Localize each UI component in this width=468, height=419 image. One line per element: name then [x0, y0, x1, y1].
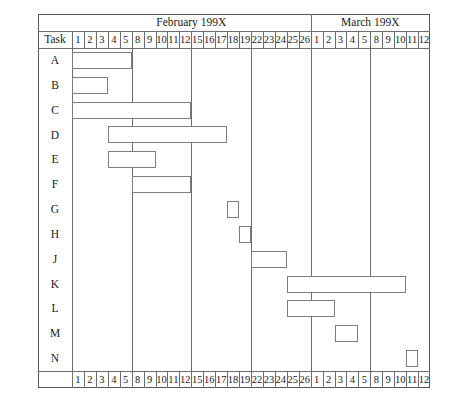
- day-footer-8-25: 8: [370, 371, 382, 388]
- day-header-5-24: 5: [358, 31, 370, 48]
- day-header-separator: [299, 31, 300, 48]
- day-footer-10-7: 10: [156, 371, 168, 388]
- day-footer-8-5: 8: [132, 371, 144, 388]
- week-gridline: [132, 48, 133, 371]
- day-footer-12-29: 12: [418, 371, 430, 388]
- day-header-separator: [227, 31, 228, 48]
- day-footer-26-19: 26: [299, 371, 311, 388]
- day-header-1-20: 1: [311, 31, 323, 48]
- day-header-separator: [215, 31, 216, 48]
- day-header-separator: [335, 31, 336, 48]
- day-header-separator: [144, 31, 145, 48]
- day-header-10-27: 10: [394, 31, 406, 48]
- day-header-15-10: 15: [191, 31, 203, 48]
- day-footer-separator: [299, 371, 300, 388]
- task-label-D: D: [38, 123, 72, 148]
- day-footer-5-24: 5: [358, 371, 370, 388]
- gantt-bar-K: [287, 276, 406, 293]
- day-header-2-21: 2: [323, 31, 335, 48]
- day-header-4-3: 4: [108, 31, 120, 48]
- day-footer-18-13: 18: [227, 371, 239, 388]
- task-label-G: G: [38, 197, 72, 222]
- day-header-separator: [275, 31, 276, 48]
- day-footer-separator: [394, 371, 395, 388]
- day-header-3-22: 3: [335, 31, 347, 48]
- day-header-separator: [287, 31, 288, 48]
- day-footer-2-21: 2: [323, 371, 335, 388]
- day-footer-separator: [311, 371, 312, 388]
- day-footer-22-15: 22: [251, 371, 263, 388]
- day-header-11-28: 11: [406, 31, 418, 48]
- task-label-N: N: [38, 346, 72, 371]
- day-footer-separator: [346, 371, 347, 388]
- gantt-bar-N: [406, 350, 418, 367]
- day-header-separator: [323, 31, 324, 48]
- gantt-bar-M: [335, 325, 359, 342]
- day-header-1-0: 1: [72, 31, 84, 48]
- day-footer-16-11: 16: [203, 371, 215, 388]
- day-header-5-4: 5: [120, 31, 132, 48]
- day-footer-4-23: 4: [346, 371, 358, 388]
- day-footer-10-27: 10: [394, 371, 406, 388]
- day-header-separator: [394, 31, 395, 48]
- day-header-10-7: 10: [156, 31, 168, 48]
- day-footer-1-0: 1: [72, 371, 84, 388]
- day-header-separator: [120, 31, 121, 48]
- day-header-12-9: 12: [179, 31, 191, 48]
- day-footer-25-18: 25: [287, 371, 299, 388]
- day-footer-separator: [191, 371, 192, 388]
- day-footer-12-9: 12: [179, 371, 191, 388]
- day-footer-19-14: 19: [239, 371, 251, 388]
- day-header-19-14: 19: [239, 31, 251, 48]
- day-footer-separator: [203, 371, 204, 388]
- day-footer-separator: [370, 371, 371, 388]
- gantt-bar-G: [227, 201, 239, 218]
- task-label-A: A: [38, 48, 72, 73]
- month-header-1: February 199X: [72, 14, 311, 31]
- day-header-separator: [191, 31, 192, 48]
- day-footer-2-1: 2: [84, 371, 96, 388]
- day-header-8-5: 8: [132, 31, 144, 48]
- day-footer-3-22: 3: [335, 371, 347, 388]
- day-header-separator: [96, 31, 97, 48]
- day-footer-4-3: 4: [108, 371, 120, 388]
- gantt-bar-D: [108, 126, 227, 143]
- day-footer-separator: [287, 371, 288, 388]
- day-footer-separator: [156, 371, 157, 388]
- day-header-12-29: 12: [418, 31, 430, 48]
- day-header-4-23: 4: [346, 31, 358, 48]
- day-footer-separator: [418, 371, 419, 388]
- day-header-2-1: 2: [84, 31, 96, 48]
- day-footer-23-16: 23: [263, 371, 275, 388]
- day-footer-separator: [323, 371, 324, 388]
- gantt-chart: February 199XMarch 199X11223344558899101…: [38, 14, 430, 388]
- day-header-separator: [370, 31, 371, 48]
- task-column-header: Task: [38, 31, 72, 48]
- day-footer-separator: [84, 371, 85, 388]
- day-header-11-8: 11: [167, 31, 179, 48]
- day-header-separator: [239, 31, 240, 48]
- day-header-8-25: 8: [370, 31, 382, 48]
- day-footer-separator: [167, 371, 168, 388]
- task-label-L: L: [38, 296, 72, 321]
- day-footer-3-2: 3: [96, 371, 108, 388]
- day-footer-separator: [132, 371, 133, 388]
- gantt-bar-J: [251, 251, 287, 268]
- task-label-M: M: [38, 321, 72, 346]
- day-header-separator: [84, 31, 85, 48]
- day-footer-separator: [275, 371, 276, 388]
- day-footer-separator: [144, 371, 145, 388]
- day-header-separator: [263, 31, 264, 48]
- day-header-separator: [156, 31, 157, 48]
- day-header-separator: [346, 31, 347, 48]
- week-gridline: [311, 48, 312, 371]
- gantt-bar-F: [132, 176, 192, 193]
- week-gridline: [251, 48, 252, 371]
- day-footer-separator: [120, 371, 121, 388]
- task-label-J: J: [38, 247, 72, 272]
- week-gridline: [191, 48, 192, 371]
- day-footer-17-12: 17: [215, 371, 227, 388]
- gantt-bar-E: [108, 151, 156, 168]
- day-header-9-6: 9: [144, 31, 156, 48]
- gantt-bar-A: [72, 52, 132, 69]
